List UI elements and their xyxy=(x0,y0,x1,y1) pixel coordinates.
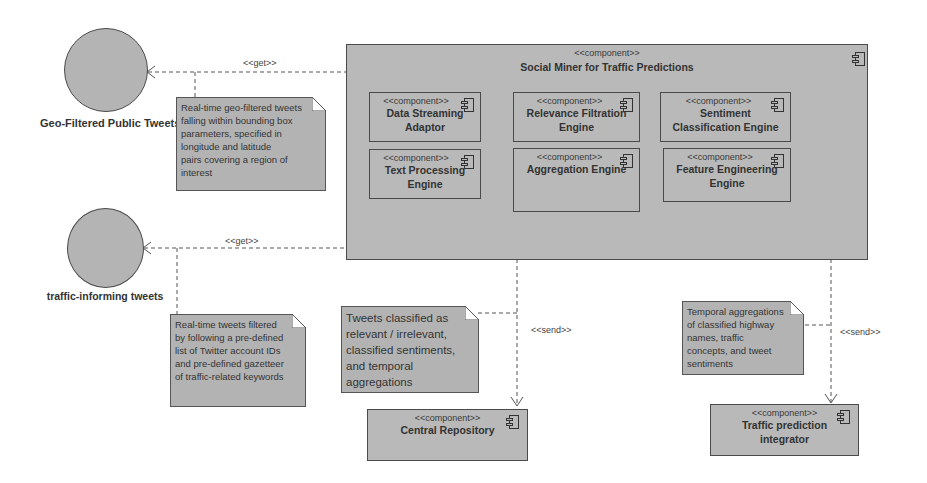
note-line: longitude and latitude xyxy=(181,140,321,153)
title-line-2: Engine xyxy=(664,176,790,190)
edge-label-send-integrator: <<send>> xyxy=(840,327,881,337)
note-traffic-integrator: Temporal aggregations of classified high… xyxy=(682,301,804,375)
component-icon xyxy=(855,52,865,66)
subcomponent-sentiment-classification-engine[interactable]: <<component>> Sentiment Classification E… xyxy=(660,92,791,142)
component-central-repository[interactable]: <<component>> Central Repository xyxy=(367,409,528,461)
component-title: Social Miner for Traffic Predictions xyxy=(347,61,867,73)
note-line: falling within bounding box xyxy=(181,114,321,127)
note-line: interest xyxy=(181,166,321,179)
note-line: relevant / irrelevant, xyxy=(346,326,474,342)
component-icon xyxy=(840,410,850,424)
note-fold-icon xyxy=(790,301,804,315)
note-line: Tweets classified as xyxy=(346,310,474,326)
component-icon xyxy=(464,98,474,112)
note-line: parameters, specified in xyxy=(181,127,321,140)
note-line: aggregations xyxy=(346,374,474,390)
note-line: and temporal xyxy=(346,358,474,374)
component-icon xyxy=(509,415,519,429)
note-fold-icon xyxy=(292,314,306,328)
title-line-2: Engine xyxy=(370,177,480,191)
title-line-1: Traffic prediction xyxy=(711,418,858,432)
note-line: names, traffic xyxy=(687,331,799,344)
edge-label-get-traffic: <<get>> xyxy=(225,236,259,246)
note-line: Real-time geo-filtered tweets xyxy=(181,101,321,114)
component-icon xyxy=(774,98,784,112)
note-line: of classified highway xyxy=(687,318,799,331)
note-central-repository: Tweets classified as relevant / irreleva… xyxy=(341,306,479,393)
note-line: of traffic-related keywords xyxy=(175,370,301,383)
title-line-2: Classification Engine xyxy=(661,120,790,134)
subcomponent-aggregation-engine[interactable]: <<component>> Aggregation Engine xyxy=(513,148,640,212)
interface-label-traffic: traffic-informing tweets xyxy=(40,290,170,302)
note-fold-icon xyxy=(465,306,479,320)
note-line: by following a pre-defined xyxy=(175,331,301,344)
stereotype: <<component>> xyxy=(347,48,867,58)
note-geo-filtered: Real-time geo-filtered tweets falling wi… xyxy=(176,97,326,191)
interface-traffic-informing-tweets xyxy=(67,208,144,288)
subcomponent-relevance-filtration-engine[interactable]: <<component>> Relevance Filtration Engin… xyxy=(513,92,640,142)
note-line: sentiments xyxy=(687,357,799,370)
interface-geo-filtered-public-tweets xyxy=(64,28,148,112)
subcomponent-data-streaming-adaptor[interactable]: <<component>> Data Streaming Adaptor xyxy=(369,92,481,142)
stereotype: <<component>> xyxy=(368,413,527,423)
edge-label-get-geo: <<get>> xyxy=(243,58,277,68)
component-icon xyxy=(774,154,784,168)
title-line-1: Central Repository xyxy=(368,423,527,437)
edge-label-send-repo: <<send>> xyxy=(531,325,572,335)
note-traffic-informing: Real-time tweets filtered by following a… xyxy=(170,314,306,407)
note-fold-icon xyxy=(312,97,326,111)
note-line: and pre-defined gazetteer xyxy=(175,357,301,370)
note-line: pairs covering a region of xyxy=(181,153,321,166)
stereotype: <<component>> xyxy=(711,408,858,418)
component-icon xyxy=(464,155,474,169)
component-traffic-prediction-integrator[interactable]: <<component>> Traffic prediction integra… xyxy=(710,404,859,456)
note-line: concepts, and tweet xyxy=(687,344,799,357)
component-social-miner[interactable]: <<component>> Social Miner for Traffic P… xyxy=(346,44,868,260)
note-line: classified sentiments, xyxy=(346,342,474,358)
title-line-2: Engine xyxy=(514,120,639,134)
interface-label-geo: Geo-Filtered Public Tweets xyxy=(40,117,170,129)
subcomponent-feature-engineering-engine[interactable]: <<component>> Feature Engineering Engine xyxy=(663,148,791,202)
subcomponent-text-processing-engine[interactable]: <<component>> Text Processing Engine xyxy=(369,149,481,199)
component-icon xyxy=(623,98,633,112)
title-line-2: integrator xyxy=(711,432,858,446)
note-line: list of Twitter account IDs xyxy=(175,344,301,357)
note-line: Temporal aggregations xyxy=(687,305,799,318)
component-icon xyxy=(623,154,633,168)
note-line: Real-time tweets filtered xyxy=(175,318,301,331)
title-line-2: Adaptor xyxy=(370,120,480,134)
